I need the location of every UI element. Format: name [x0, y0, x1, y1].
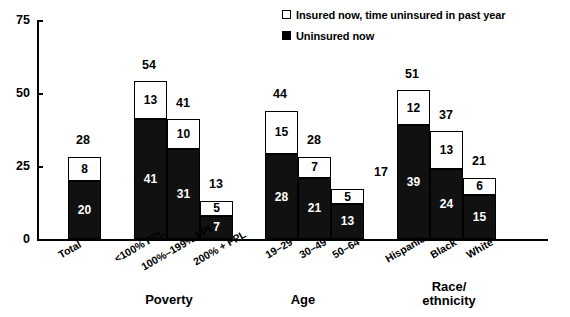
bar-total-value-race-white: 21	[472, 154, 486, 168]
bar-race-hispanic: 12 39	[397, 90, 430, 239]
bar-segment-insured-now: 13	[134, 81, 167, 119]
bar-age-30-49: 7 21	[298, 157, 331, 239]
bar-segment-insured-now: 10	[167, 119, 200, 148]
bar-total-value-age-19-29: 44	[273, 87, 287, 101]
bar-segment-value-light: 13	[440, 144, 453, 156]
bar-total-value-100-199-fpl: 41	[176, 96, 190, 110]
bar-segment-value-dark: 24	[440, 198, 453, 210]
bar-total-value-race-hispanic: 51	[405, 67, 419, 81]
bar-100-199-fpl: 10 31	[167, 119, 200, 239]
bar-total-value-200-plus-fpl: 13	[209, 177, 223, 191]
y-tick-label-25: 25	[0, 159, 37, 173]
bar-segment-value-light: 13	[144, 94, 157, 106]
legend-label-insured-now: Insured now, time uninsured in past year	[296, 9, 506, 21]
y-tick-label-0: 0	[0, 232, 37, 246]
bar-segment-value-dark: 31	[177, 188, 190, 200]
bar-segment-insured-now: 5	[331, 189, 364, 204]
bar-total: 8 20	[68, 157, 101, 239]
bar-under-100-fpl: 13 41	[134, 81, 167, 239]
bar-segment-value-dark: 41	[144, 173, 157, 185]
bar-total-value-age-30-49: 28	[307, 133, 321, 147]
bar-segment-insured-now: 12	[397, 90, 430, 125]
bar-segment-value-dark: 21	[308, 202, 321, 214]
bar-segment-value-dark: 15	[473, 211, 486, 223]
y-tick-label-75: 75	[0, 13, 37, 27]
x-axis-line	[37, 239, 548, 241]
bar-segment-uninsured-now: 13	[331, 204, 364, 239]
bar-segment-insured-now: 13	[430, 131, 463, 169]
y-tick-0	[37, 239, 43, 241]
bar-age-50-64: 5 13	[331, 189, 364, 239]
x-group-label-race-line1: Race/	[399, 280, 499, 294]
plot-area: 8 20 28 13 41 54 10 31 41	[37, 20, 548, 239]
bar-segment-uninsured-now: 28	[265, 154, 298, 239]
bar-total-value-total: 28	[76, 133, 90, 147]
bar-segment-value-light: 7	[311, 161, 318, 173]
bar-segment-insured-now: 7	[298, 157, 331, 177]
bar-segment-insured-now: 15	[265, 111, 298, 155]
bar-segment-value-light: 5	[344, 191, 351, 203]
chart-root: Insured now, time uninsured in past year…	[0, 0, 570, 317]
bar-segment-value-light: 12	[407, 102, 420, 114]
bar-segment-value-dark: 28	[275, 191, 288, 203]
bar-segment-value-dark: 20	[78, 204, 91, 216]
bar-race-black: 13 24	[430, 131, 463, 239]
x-group-label-race-line2: ethnicity	[399, 294, 499, 308]
x-group-label-poverty: Poverty	[119, 293, 219, 307]
bar-segment-insured-now: 8	[68, 157, 101, 180]
bar-segment-uninsured-now: 20	[68, 181, 101, 239]
bar-segment-value-dark: 13	[341, 215, 354, 227]
bar-segment-uninsured-now: 21	[298, 178, 331, 239]
bar-segment-value-light: 6	[476, 180, 483, 192]
bar-total-value-under-100-fpl: 54	[142, 58, 156, 72]
bar-segment-insured-now: 6	[463, 178, 496, 196]
bar-segment-value-light: 10	[177, 128, 190, 140]
bar-segment-uninsured-now: 41	[134, 119, 167, 239]
bar-race-white: 6 15	[463, 178, 496, 239]
bar-segment-value-light: 15	[275, 126, 288, 138]
bar-age-19-29: 15 28	[265, 111, 298, 240]
bar-segment-uninsured-now: 15	[463, 195, 496, 239]
bar-total-value-age-50-64: 17	[374, 165, 388, 179]
x-category-label-total: Total	[56, 238, 83, 261]
bar-segment-uninsured-now: 31	[167, 149, 200, 240]
bar-segment-insured-now: 5	[200, 201, 233, 216]
bar-total-value-race-black: 37	[439, 108, 453, 122]
bar-segment-value-dark: 39	[407, 176, 420, 188]
bar-segment-uninsured-now: 39	[397, 125, 430, 239]
x-group-label-age: Age	[253, 293, 353, 307]
x-group-label-race-ethnicity: Race/ ethnicity	[399, 280, 499, 307]
legend-swatch-open-square-icon	[282, 10, 291, 19]
bar-segment-uninsured-now: 24	[430, 169, 463, 239]
y-tick-label-50: 50	[0, 86, 37, 100]
bar-segment-value-light: 5	[213, 202, 220, 214]
bar-segment-value-light: 8	[81, 163, 88, 175]
